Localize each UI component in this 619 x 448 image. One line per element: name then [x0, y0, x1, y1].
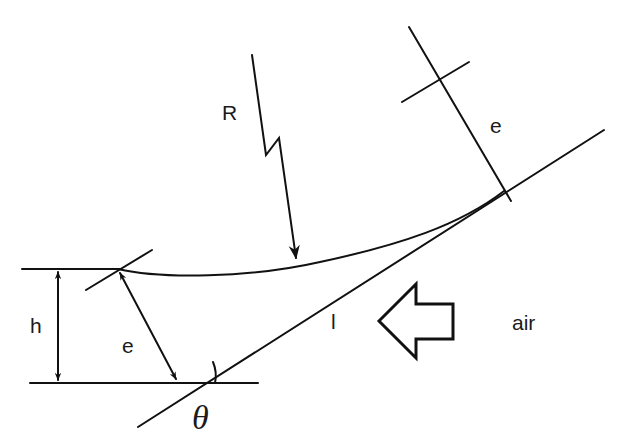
label-h: h: [30, 314, 42, 337]
slope-line: [138, 130, 604, 427]
label-R: R: [222, 101, 237, 124]
radiation-arrow: [252, 55, 296, 258]
label-l: l: [331, 310, 336, 333]
label-e-left: e: [122, 334, 134, 357]
label-theta: θ: [192, 399, 209, 436]
thickness-arrow: [120, 273, 176, 379]
diagram-canvas: R e e h l air θ: [0, 0, 619, 448]
surface-curve: [118, 191, 504, 275]
top-tick-line: [402, 62, 469, 102]
label-air: air: [512, 311, 535, 334]
label-e-top: e: [490, 114, 502, 137]
air-flow-arrow: [379, 284, 453, 358]
